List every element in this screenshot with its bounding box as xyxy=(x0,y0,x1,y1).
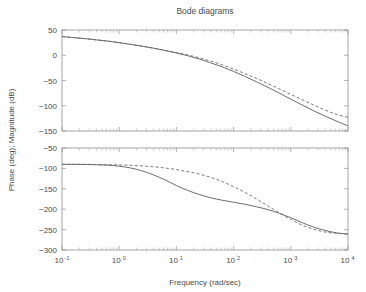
x-tick-label: 103 xyxy=(283,255,297,266)
x-axis-label: Frequency (rad/sec) xyxy=(169,278,241,287)
x-tick-exponent: 3 xyxy=(294,255,297,261)
figure-title: Bode diagrams xyxy=(176,6,233,16)
magnitude-y-tick-label: 0 xyxy=(53,51,58,60)
magnitude-plot-frame xyxy=(62,30,348,131)
y-axis-label: Phase (deg); Magnitude (dB) xyxy=(7,88,16,191)
magnitude-y-tick-label: −50 xyxy=(43,77,57,86)
magnitude-curve-solid xyxy=(62,37,348,126)
phase-curve-solid xyxy=(62,164,348,234)
x-tick-label: 104 xyxy=(341,255,355,266)
x-tick-base: 10 xyxy=(283,256,292,265)
phase-y-tick-label: −250 xyxy=(39,226,58,235)
phase-y-tick-label: −50 xyxy=(43,144,57,153)
bode-plot-canvas: Bode diagrams10-1100101102103104500−50−1… xyxy=(0,0,366,292)
x-tick-label: 10-1 xyxy=(55,255,70,266)
x-tick-base: 10 xyxy=(55,256,64,265)
x-tick-base: 10 xyxy=(226,256,235,265)
x-tick-base: 10 xyxy=(341,256,350,265)
magnitude-curves-group xyxy=(62,37,348,126)
x-tick-label: 102 xyxy=(226,255,240,266)
x-tick-exponent: -1 xyxy=(65,255,70,261)
x-tick-exponent: 0 xyxy=(123,255,126,261)
phase-y-tick-label: −150 xyxy=(39,185,58,194)
x-tick-exponent: 1 xyxy=(180,255,183,261)
magnitude-y-tick-label: 50 xyxy=(48,26,57,35)
phase-plot-frame xyxy=(62,148,348,250)
phase-y-tick-label: −300 xyxy=(39,246,58,255)
phase-y-tick-label: −200 xyxy=(39,205,58,214)
phase-curves-group xyxy=(62,164,348,234)
magnitude-curve-dashed xyxy=(62,37,348,118)
x-tick-exponent: 4 xyxy=(351,255,354,261)
bode-figure: Bode diagrams10-1100101102103104500−50−1… xyxy=(0,0,366,292)
x-tick-label: 101 xyxy=(169,255,183,266)
x-tick-base: 10 xyxy=(112,256,121,265)
x-tick-label: 100 xyxy=(112,255,126,266)
magnitude-y-tick-label: −150 xyxy=(39,127,58,136)
magnitude-y-tick-label: −100 xyxy=(39,102,58,111)
x-tick-base: 10 xyxy=(169,256,178,265)
x-tick-exponent: 2 xyxy=(237,255,240,261)
phase-y-tick-label: −100 xyxy=(39,164,58,173)
